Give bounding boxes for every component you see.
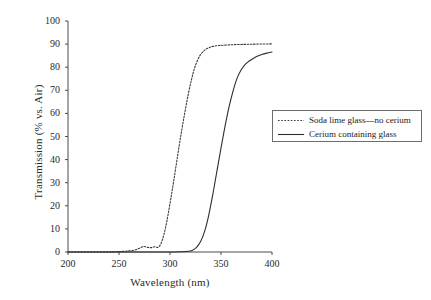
x-tick-label: 200	[51, 258, 85, 269]
x-tick-label: 250	[102, 258, 136, 269]
y-axis-title: Transmission (% vs. Air)	[32, 42, 44, 242]
x-tick-label: 300	[153, 258, 187, 269]
legend-label: Soda lime glass—no cerium	[309, 115, 411, 125]
series-line-cerium-containing-glass	[68, 52, 272, 252]
x-axis-title: Wavelength (nm)	[68, 276, 272, 288]
legend-dotted-line-icon	[278, 116, 304, 125]
x-tick-label: 350	[204, 258, 238, 269]
axes-group	[65, 21, 272, 255]
plot-canvas	[0, 0, 431, 300]
chart-figure: 0102030405060708090100 200250300350400 W…	[0, 0, 431, 300]
legend-item-cerium-containing-glass: Cerium containing glass	[278, 127, 397, 141]
legend-solid-line-icon	[278, 130, 304, 139]
series-line-soda-lime-glass	[68, 44, 272, 252]
x-tick-label: 400	[255, 258, 289, 269]
y-tick-label: 0	[34, 246, 60, 257]
legend-label: Cerium containing glass	[309, 129, 397, 139]
legend-item-soda-lime-glass: Soda lime glass—no cerium	[278, 113, 411, 127]
series-group	[68, 44, 272, 252]
chart-legend: Soda lime glass—no cerium Cerium contain…	[272, 110, 422, 142]
y-tick-label: 100	[34, 15, 60, 26]
